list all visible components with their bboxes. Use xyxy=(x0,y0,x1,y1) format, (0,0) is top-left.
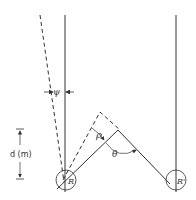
distance-label: d (m) xyxy=(10,150,32,159)
rho-label: ρ xyxy=(95,129,102,140)
tilted-dashed-line xyxy=(40,15,64,182)
receiver-right-label: R' xyxy=(176,177,185,186)
diagram-canvas: ψ R R' ρ θ d (m) xyxy=(0,0,196,200)
geometry-diagram: ψ R R' ρ θ d (m) xyxy=(0,0,196,200)
psi-label: ψ xyxy=(53,87,61,97)
theta-label: θ xyxy=(112,149,118,159)
dashed-ray-path xyxy=(63,112,120,180)
